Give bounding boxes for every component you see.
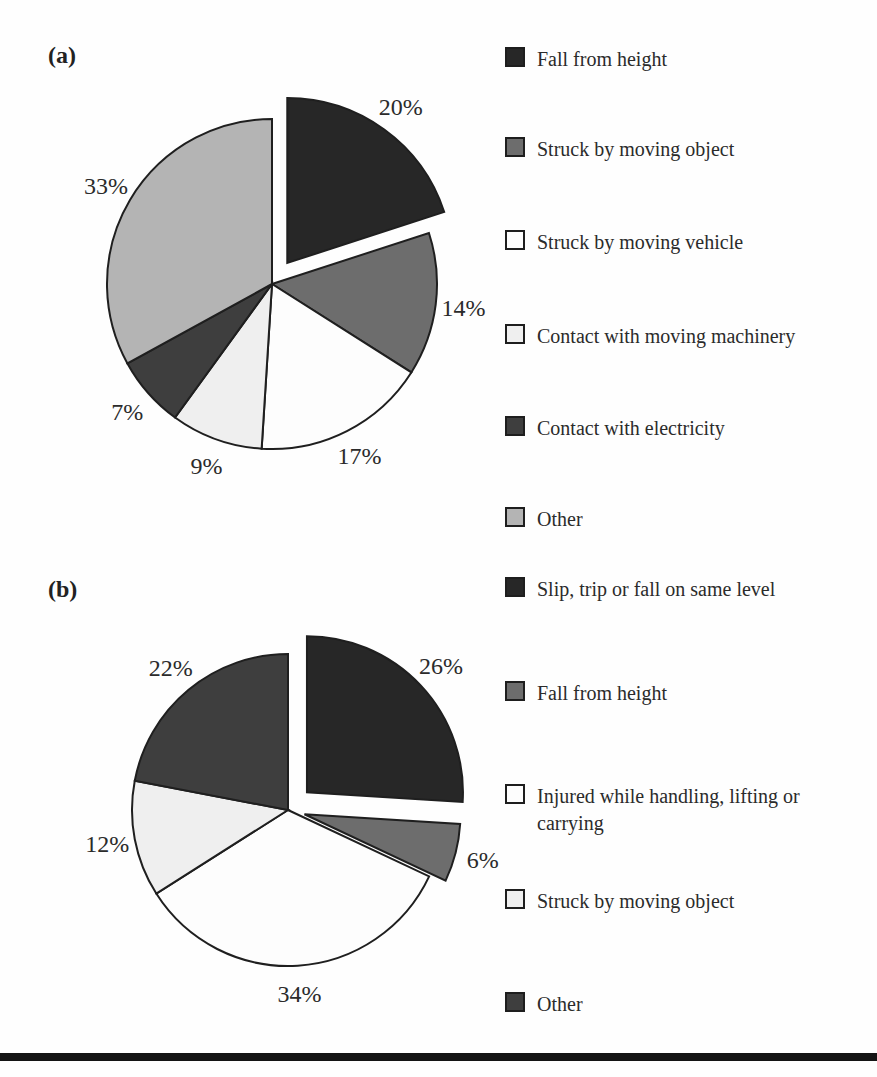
legend-label: Contact with electricity xyxy=(537,415,725,442)
legend-label: Contact with moving machinery xyxy=(537,323,795,350)
legend-label: Injured while handling, lifting or carry… xyxy=(537,783,865,837)
legend-item-injured-while-handling-lifting-or-carrying: Injured while handling, lifting or carry… xyxy=(505,783,865,837)
legend-swatch xyxy=(505,416,525,436)
legend-item-contact-with-moving-machinery: Contact with moving machinery xyxy=(505,323,865,350)
pie-chart-a: 20%14%17%9%7%33% xyxy=(0,0,512,535)
legend-item-struck-by-moving-vehicle: Struck by moving vehicle xyxy=(505,229,865,256)
pie-percent-label-injured-while-handling-lifting-or-carrying: 34% xyxy=(278,981,322,1007)
legend-item-fall-from-height-b: Fall from height xyxy=(505,680,865,707)
pie-percent-label-other: 33% xyxy=(84,173,128,199)
legend-item-contact-with-electricity: Contact with electricity xyxy=(505,415,865,442)
pie-percent-label-contact-with-electricity: 7% xyxy=(111,399,143,425)
legend-swatch xyxy=(505,992,525,1012)
legend-label: Struck by moving object xyxy=(537,136,734,163)
legend-swatch xyxy=(505,47,525,67)
legend-label: Other xyxy=(537,991,583,1018)
legend-swatch xyxy=(505,681,525,701)
legend-item-struck-by-moving-object: Struck by moving object xyxy=(505,136,865,163)
legend-label: Fall from height xyxy=(537,680,667,707)
legend-item-fall-from-height: Fall from height xyxy=(505,46,865,73)
pie-percent-label-struck-by-moving-object: 12% xyxy=(85,831,129,857)
legend-item-struck-by-moving-object-b: Struck by moving object xyxy=(505,888,865,915)
pie-percent-label-contact-with-moving-machinery: 9% xyxy=(191,453,223,479)
legend-label: Struck by moving vehicle xyxy=(537,229,743,256)
legend-label: Other xyxy=(537,506,583,533)
pie-percent-label-struck-by-moving-vehicle: 17% xyxy=(338,443,382,469)
legend-swatch xyxy=(505,230,525,250)
legend-label: Struck by moving object xyxy=(537,888,734,915)
legend-swatch xyxy=(505,324,525,344)
legend-label: Fall from height xyxy=(537,46,667,73)
legend-swatch xyxy=(505,137,525,157)
legend-swatch xyxy=(505,507,525,527)
pie-percent-label-slip-trip-or-fall-on-same-level: 26% xyxy=(419,653,463,679)
pie-percent-label-other: 22% xyxy=(149,655,193,681)
page-bottom-rule xyxy=(0,1053,877,1061)
legend-item-slip-trip-or-fall-on-same-level: Slip, trip or fall on same level xyxy=(505,576,865,603)
pie-percent-label-fall-from-height: 20% xyxy=(379,94,423,120)
legend-item-other-b: Other xyxy=(505,991,865,1018)
pie-percent-label-fall-from-height: 6% xyxy=(467,847,499,873)
pie-percent-label-struck-by-moving-object: 14% xyxy=(441,295,485,321)
pie-chart-b: 26%6%34%12%22% xyxy=(0,540,512,1053)
legend-item-other-a: Other xyxy=(505,506,865,533)
legend-swatch xyxy=(505,889,525,909)
legend-swatch xyxy=(505,784,525,804)
legend-label: Slip, trip or fall on same level xyxy=(537,576,775,603)
legend-swatch xyxy=(505,577,525,597)
figure-page: (a) 20%14%17%9%7%33% Fall from height St… xyxy=(0,0,877,1077)
